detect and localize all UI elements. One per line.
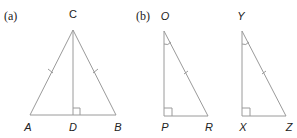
part-a: (a) C A D B bbox=[4, 8, 122, 133]
vertex-label-o: O bbox=[161, 10, 170, 22]
vertex-label-d: D bbox=[69, 121, 77, 133]
right-angle-mark-x bbox=[242, 108, 250, 116]
vertex-label-r: R bbox=[205, 121, 213, 133]
vertex-label-x: X bbox=[238, 121, 247, 133]
right-angle-mark-p bbox=[164, 108, 172, 116]
part-b: (b) O P R Y X Z bbox=[136, 9, 294, 133]
right-angle-mark-d bbox=[73, 108, 80, 115]
vertex-label-b: B bbox=[114, 121, 121, 133]
vertex-label-a: A bbox=[23, 121, 31, 133]
vertex-label-c: C bbox=[69, 8, 77, 20]
triangle-opr bbox=[164, 31, 208, 116]
vertex-label-z: Z bbox=[285, 121, 294, 133]
part-b-label: (b) bbox=[136, 9, 150, 23]
vertex-label-p: P bbox=[161, 121, 169, 133]
part-a-label: (a) bbox=[4, 9, 17, 23]
vertex-label-y: Y bbox=[237, 10, 245, 22]
triangle-yxz bbox=[242, 31, 286, 116]
geometry-diagram: (a) C A D B (b) O P R Y X Z bbox=[0, 0, 297, 138]
